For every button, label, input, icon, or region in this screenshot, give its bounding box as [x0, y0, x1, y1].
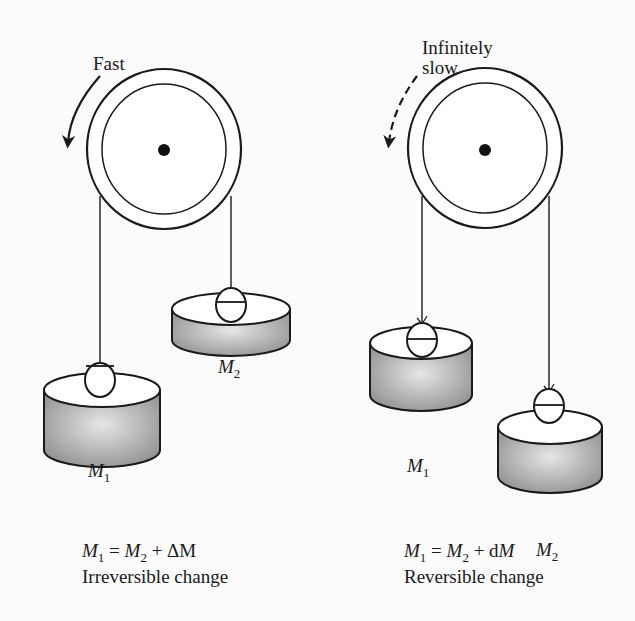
mass-symbol: M [218, 356, 234, 377]
right-equation: M1 = M2 + dM [404, 540, 514, 564]
eq-plus: + [147, 540, 167, 561]
hook-ring-icon [534, 389, 564, 423]
eq-equals: = [104, 540, 124, 561]
eq-lhs-sub: 1 [420, 550, 427, 565]
left-pulley [87, 69, 241, 229]
hook-ring-icon [216, 288, 246, 322]
right-weight-m2 [498, 389, 602, 493]
left-m2-label: M2 [218, 357, 240, 379]
left-panel [44, 69, 290, 467]
hook-ring-icon [407, 323, 437, 357]
mass-subscript: 1 [423, 465, 430, 480]
mass-symbol: M [407, 455, 423, 476]
eq-plus: + [469, 540, 489, 561]
eq-delta-m: ΔM [167, 540, 196, 561]
mass-subscript: 1 [104, 470, 111, 485]
eq-dm: M [499, 540, 515, 561]
right-m1-label: M1 [407, 456, 429, 478]
eq-d: d [489, 540, 499, 561]
pulley-axle-icon [158, 144, 170, 156]
eq-equals: = [426, 540, 446, 561]
right-pulley [408, 68, 562, 228]
infinitely-label: Infinitely [422, 38, 493, 58]
left-m1-label: M1 [88, 461, 110, 483]
eq-rhs: M [125, 540, 141, 561]
fast-label: Fast [93, 54, 125, 74]
mass-subscript: 2 [552, 549, 559, 564]
pulley-diagram [0, 0, 635, 621]
left-weight-m1 [44, 363, 160, 467]
eq-rhs: M [447, 540, 463, 561]
eq-lhs-sub: 1 [98, 550, 105, 565]
left-weight-m2 [172, 288, 290, 356]
mass-symbol: M [88, 460, 104, 481]
eq-rhs-sub: 2 [462, 550, 469, 565]
right-m2-label: M2 [536, 540, 558, 562]
slow-label: slow [422, 58, 458, 78]
right-panel [370, 68, 602, 493]
eq-lhs: M [404, 540, 420, 561]
eq-rhs-sub: 2 [140, 550, 147, 565]
hook-ring-icon [85, 363, 115, 397]
eq-lhs: M [82, 540, 98, 561]
pulley-axle-icon [479, 144, 491, 156]
reversible-caption: Reversible change [404, 566, 544, 588]
mass-symbol: M [536, 539, 552, 560]
right-weight-m1 [370, 323, 472, 411]
left-equation: M1 = M2 + ΔM [82, 540, 196, 564]
mass-subscript: 2 [234, 366, 241, 381]
irreversible-caption: Irreversible change [82, 566, 228, 588]
